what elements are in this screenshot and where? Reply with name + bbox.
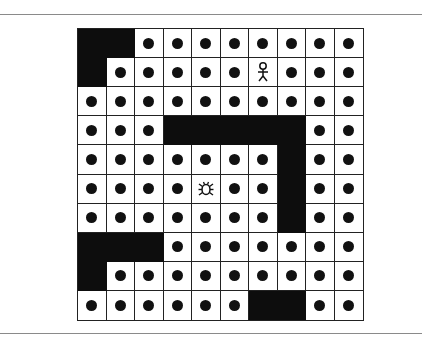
pellet-dot <box>229 38 240 49</box>
pellet-cell <box>135 175 164 204</box>
pellet-cell <box>192 262 221 291</box>
pellet-cell <box>192 87 221 116</box>
pellet-cell <box>192 145 221 174</box>
pellet-dot <box>200 38 211 49</box>
pellet-cell <box>335 29 364 58</box>
pellet-dot <box>143 154 154 165</box>
stick-figure-icon <box>254 62 272 82</box>
pellet-dot <box>314 270 325 281</box>
pellet-cell <box>306 87 335 116</box>
pellet-dot <box>86 183 97 194</box>
pellet-cell <box>249 29 278 58</box>
pellet-dot <box>257 154 268 165</box>
pellet-dot <box>143 38 154 49</box>
pellet-cell <box>135 58 164 87</box>
pellet-dot <box>257 38 268 49</box>
pellet-dot <box>172 96 183 107</box>
pellet-dot <box>86 96 97 107</box>
pellet-cell <box>192 233 221 262</box>
pellet-dot <box>200 300 211 311</box>
pellet-dot <box>286 38 297 49</box>
pellet-cell <box>164 291 193 320</box>
pellet-dot <box>343 241 354 252</box>
pellet-dot <box>143 212 154 223</box>
pellet-cell <box>221 233 250 262</box>
pellet-cell <box>249 87 278 116</box>
wall-cell <box>78 233 107 262</box>
pellet-cell <box>335 262 364 291</box>
pellet-dot <box>286 270 297 281</box>
pellet-cell <box>278 58 307 87</box>
pellet-dot <box>143 300 154 311</box>
wall-cell <box>278 145 307 174</box>
pellet-dot <box>172 38 183 49</box>
pellet-cell <box>164 262 193 291</box>
pellet-dot <box>115 125 126 136</box>
pellet-dot <box>343 96 354 107</box>
pellet-cell <box>221 145 250 174</box>
pellet-cell <box>192 204 221 233</box>
pellet-cell <box>306 116 335 145</box>
pellet-cell <box>306 175 335 204</box>
pellet-cell <box>335 58 364 87</box>
pellet-cell <box>135 204 164 233</box>
pellet-dot <box>257 183 268 194</box>
top-divider <box>0 14 422 15</box>
pellet-dot <box>314 183 325 194</box>
pellet-dot <box>115 300 126 311</box>
bug-icon <box>197 179 215 199</box>
pellet-cell <box>249 233 278 262</box>
wall-cell <box>164 116 193 145</box>
pellet-dot <box>314 67 325 78</box>
pellet-dot <box>172 154 183 165</box>
pellet-cell <box>221 291 250 320</box>
pellet-dot <box>229 300 240 311</box>
pellet-cell <box>107 204 136 233</box>
pellet-dot <box>229 67 240 78</box>
pellet-cell <box>249 145 278 174</box>
pellet-cell <box>335 175 364 204</box>
pellet-cell <box>135 87 164 116</box>
game-board <box>77 28 364 321</box>
pellet-dot <box>86 154 97 165</box>
pellet-cell <box>78 291 107 320</box>
pellet-cell <box>278 262 307 291</box>
pellet-dot <box>172 270 183 281</box>
pellet-cell <box>249 262 278 291</box>
pellet-dot <box>314 96 325 107</box>
pellet-dot <box>314 154 325 165</box>
pellet-dot <box>229 270 240 281</box>
pellet-cell <box>221 204 250 233</box>
pellet-dot <box>115 212 126 223</box>
pellet-dot <box>229 183 240 194</box>
pellet-cell <box>278 87 307 116</box>
pellet-cell <box>135 116 164 145</box>
wall-cell <box>135 233 164 262</box>
pellet-cell <box>306 145 335 174</box>
pellet-dot <box>343 38 354 49</box>
pellet-dot <box>343 212 354 223</box>
pellet-cell <box>306 204 335 233</box>
wall-cell <box>249 116 278 145</box>
pellet-dot <box>172 212 183 223</box>
pellet-cell <box>221 29 250 58</box>
pellet-dot <box>200 67 211 78</box>
pellet-cell <box>107 262 136 291</box>
pellet-dot <box>200 212 211 223</box>
pellet-cell <box>135 29 164 58</box>
pellet-dot <box>86 125 97 136</box>
pellet-cell <box>107 116 136 145</box>
pellet-cell <box>192 29 221 58</box>
pellet-cell <box>78 145 107 174</box>
pellet-dot <box>200 154 211 165</box>
pellet-dot <box>314 125 325 136</box>
pellet-dot <box>143 183 154 194</box>
pellet-cell <box>107 145 136 174</box>
pellet-dot <box>257 270 268 281</box>
pellet-dot <box>172 300 183 311</box>
pellet-dot <box>143 96 154 107</box>
pellet-cell <box>278 29 307 58</box>
pellet-cell <box>335 204 364 233</box>
pellet-cell <box>306 29 335 58</box>
wall-cell <box>78 29 107 58</box>
